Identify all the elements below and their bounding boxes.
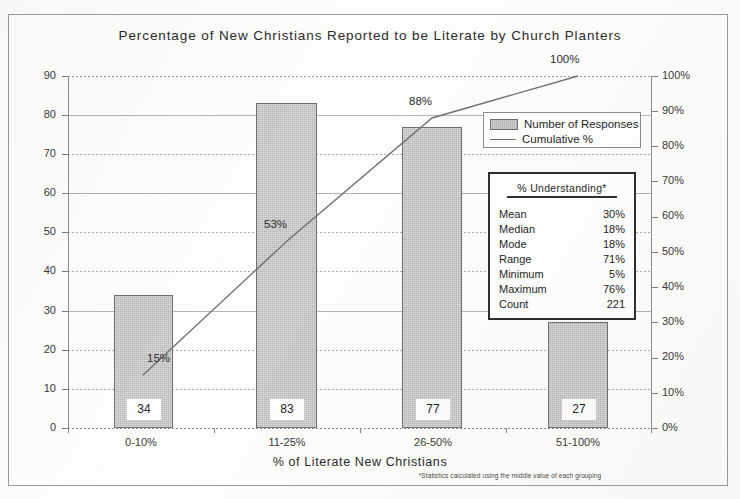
ytick-left-50: 50 [8, 225, 56, 237]
tickmark-right-100 [652, 76, 658, 77]
ytick-right-100: 100% [662, 69, 708, 81]
tickmark-left-90 [62, 76, 68, 77]
chart-legend[interactable]: Number of Responses Cumulative % [483, 112, 641, 148]
bar-swatch-icon [490, 119, 518, 130]
tickmark-right-90 [652, 111, 658, 112]
ytick-left-80: 80 [8, 108, 56, 120]
ytick-right-70: 70% [662, 174, 708, 186]
ytick-left-70: 70 [8, 147, 56, 159]
tickmark-left-20 [62, 350, 68, 351]
ytick-right-20: 20% [662, 350, 708, 362]
ytick-left-60: 60 [8, 186, 56, 198]
xtickmark-1 [214, 428, 215, 433]
tickmark-right-70 [652, 181, 658, 182]
tickmark-left-60 [62, 193, 68, 194]
cum-label-0-10: 15% [147, 352, 170, 364]
bar-26-50[interactable] [402, 127, 462, 428]
ytick-right-80: 80% [662, 139, 708, 151]
tickmark-left-30 [62, 311, 68, 312]
tickmark-right-40 [652, 287, 658, 288]
tickmark-right-0 [652, 428, 658, 429]
stats-value-range: 71% [603, 252, 625, 267]
chart-footnote: *Statistics calculated using the middle … [330, 472, 690, 479]
xtick-label-0-10: 0-10% [81, 436, 201, 448]
gridline-70 [68, 154, 652, 155]
ytick-right-30: 30% [662, 315, 708, 327]
ytick-left-40: 40 [8, 264, 56, 276]
stats-row: Median 18% [499, 222, 625, 237]
ytick-left-0: 0 [8, 421, 56, 433]
stats-key-maximum: Maximum [499, 282, 547, 297]
cum-label-11-25: 53% [264, 218, 287, 230]
stats-row: Maximum 76% [499, 282, 625, 297]
bar-11-25[interactable] [256, 103, 317, 428]
ytick-right-10: 10% [662, 386, 708, 398]
tickmark-right-20 [652, 358, 658, 359]
xtickmark-2 [360, 428, 361, 433]
ytick-right-40: 40% [662, 280, 708, 292]
xtickmark-3 [506, 428, 507, 433]
stats-value-mode: 18% [603, 237, 625, 252]
y-axis-left [68, 76, 69, 428]
cum-label-51-100: 100% [550, 53, 579, 65]
legend-item-responses[interactable]: Number of Responses [490, 117, 634, 131]
stats-row: Count 221 [499, 297, 625, 312]
stats-row: Minimum 5% [499, 267, 625, 282]
tickmark-left-50 [62, 232, 68, 233]
ytick-left-90: 90 [8, 69, 56, 81]
stats-key-minimum: Minimum [499, 267, 544, 282]
tickmark-right-80 [652, 146, 658, 147]
stats-value-median: 18% [603, 222, 625, 237]
ytick-right-0: 0% [662, 421, 708, 433]
bar-value-11-25: 83 [269, 398, 305, 421]
stats-key-count: Count [499, 297, 528, 312]
chart-title: Percentage of New Christians Reported to… [70, 26, 670, 45]
tickmark-right-50 [652, 252, 658, 253]
ytick-right-60: 60% [662, 209, 708, 221]
xtickmark-0 [68, 428, 69, 433]
cum-label-26-50: 88% [409, 95, 432, 107]
ytick-right-90: 90% [662, 104, 708, 116]
tickmark-left-10 [62, 389, 68, 390]
stats-value-mean: 30% [603, 207, 625, 222]
plot-top-border [68, 76, 652, 77]
legend-label-responses: Number of Responses [524, 118, 638, 130]
stats-value-minimum: 5% [609, 267, 625, 282]
chart-page: Percentage of New Christians Reported to… [0, 0, 740, 499]
line-swatch-icon [490, 139, 516, 140]
legend-label-cumulative: Cumulative % [522, 133, 593, 145]
bar-value-51-100: 27 [561, 398, 597, 421]
xtick-label-11-25: 11-25% [227, 436, 347, 448]
stats-value-maximum: 76% [603, 282, 625, 297]
ytick-left-10: 10 [8, 382, 56, 394]
xtick-label-26-50: 26-50% [373, 436, 493, 448]
xtickmark-4 [651, 428, 652, 433]
stats-key-median: Median [499, 222, 535, 237]
legend-item-cumulative[interactable]: Cumulative % [490, 132, 634, 146]
tickmark-left-80 [62, 115, 68, 116]
tickmark-right-60 [652, 217, 658, 218]
ytick-left-20: 20 [8, 343, 56, 355]
stats-key-range: Range [499, 252, 531, 267]
stats-row: Mode 18% [499, 237, 625, 252]
bar-value-0-10: 34 [126, 398, 162, 421]
statistics-box: % Understanding* Mean 30% Median 18% Mod… [488, 172, 636, 320]
tickmark-right-30 [652, 322, 658, 323]
bar-value-26-50: 77 [415, 398, 451, 421]
stats-key-mean: Mean [499, 207, 527, 222]
x-axis-title: % of Literate New Christians [120, 455, 600, 469]
stats-row: Mean 30% [499, 207, 625, 222]
ytick-right-50: 50% [662, 245, 708, 257]
statistics-title: % Understanding* [507, 182, 617, 198]
tickmark-right-10 [652, 393, 658, 394]
ytick-left-30: 30 [8, 304, 56, 316]
tickmark-left-40 [62, 271, 68, 272]
stats-key-mode: Mode [499, 237, 527, 252]
stats-value-count: 221 [607, 297, 625, 312]
xtick-label-51-100: 51-100% [518, 436, 638, 448]
stats-row: Range 71% [499, 252, 625, 267]
tickmark-left-70 [62, 154, 68, 155]
